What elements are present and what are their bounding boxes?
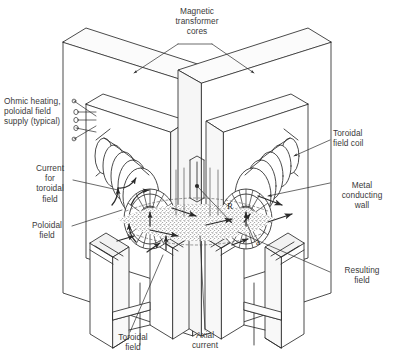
label-axial-current: Axial current: [182, 330, 228, 350]
label-current-for-toroidal-field: Current for toroidal field: [26, 163, 74, 204]
label-toroidal-field-coil: Toroidal field coil: [333, 128, 391, 148]
tokamak-diagram-figure: Magnetic transformer cores Ohmic heating…: [0, 0, 394, 361]
symbol-major-radius-R: R: [227, 201, 233, 211]
label-ohmic-heating-supply: Ohmic heating, poloidal field supply (ty…: [4, 96, 78, 127]
label-toroidal-field: Toroidal field: [108, 332, 158, 352]
label-resulting-field: Resulting field: [333, 265, 391, 285]
symbol-minor-radius-a: a: [256, 237, 260, 247]
label-magnetic-transformer-cores: Magnetic transformer cores: [152, 6, 242, 37]
label-metal-conducting-wall: Metal conducting wall: [333, 180, 391, 211]
label-poloidal-field: Poloidal field: [22, 220, 72, 240]
